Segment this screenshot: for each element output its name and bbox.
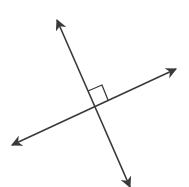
background <box>0 0 189 187</box>
perpendicular-lines-diagram <box>0 0 189 187</box>
